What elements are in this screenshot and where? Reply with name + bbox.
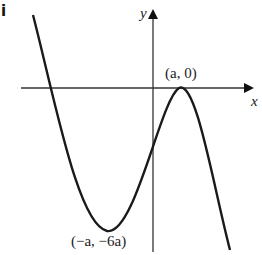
cubic-curve — [33, 15, 230, 250]
x-axis-label: x — [251, 93, 258, 110]
graph-canvas — [0, 0, 262, 255]
min-point-label: (−a, −6a) — [71, 233, 126, 250]
y-axis-label: y — [140, 5, 147, 22]
max-point-label: (a, 0) — [165, 65, 197, 82]
